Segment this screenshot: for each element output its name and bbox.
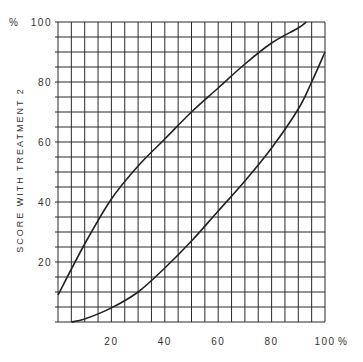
upper-curve [58, 22, 306, 295]
y-tick-label: 100 [31, 17, 52, 28]
y-tick-label: 40 [38, 197, 52, 208]
y-tick-label: 20 [38, 257, 52, 268]
chart-canvas: 20406080100 20406080100 % % SCORE WITH T… [0, 0, 363, 362]
y-tick-label: 60 [38, 137, 52, 148]
y-tick-label: 80 [38, 77, 52, 88]
x-tick-label: 80 [265, 336, 279, 347]
y-unit-label: % [9, 17, 19, 28]
x-unit-label: % [338, 336, 348, 347]
x-tick-label: 20 [104, 336, 118, 347]
plot-grid [55, 22, 325, 322]
x-tick-label: 60 [211, 336, 225, 347]
x-tick-label: 40 [158, 336, 172, 347]
y-axis-ticks: 20406080100 [31, 17, 52, 268]
y-axis-title: SCORE WITH TREATMENT 2 [15, 87, 25, 253]
x-tick-label: 100 [314, 336, 335, 347]
x-axis-ticks: 20406080100 [104, 336, 335, 347]
